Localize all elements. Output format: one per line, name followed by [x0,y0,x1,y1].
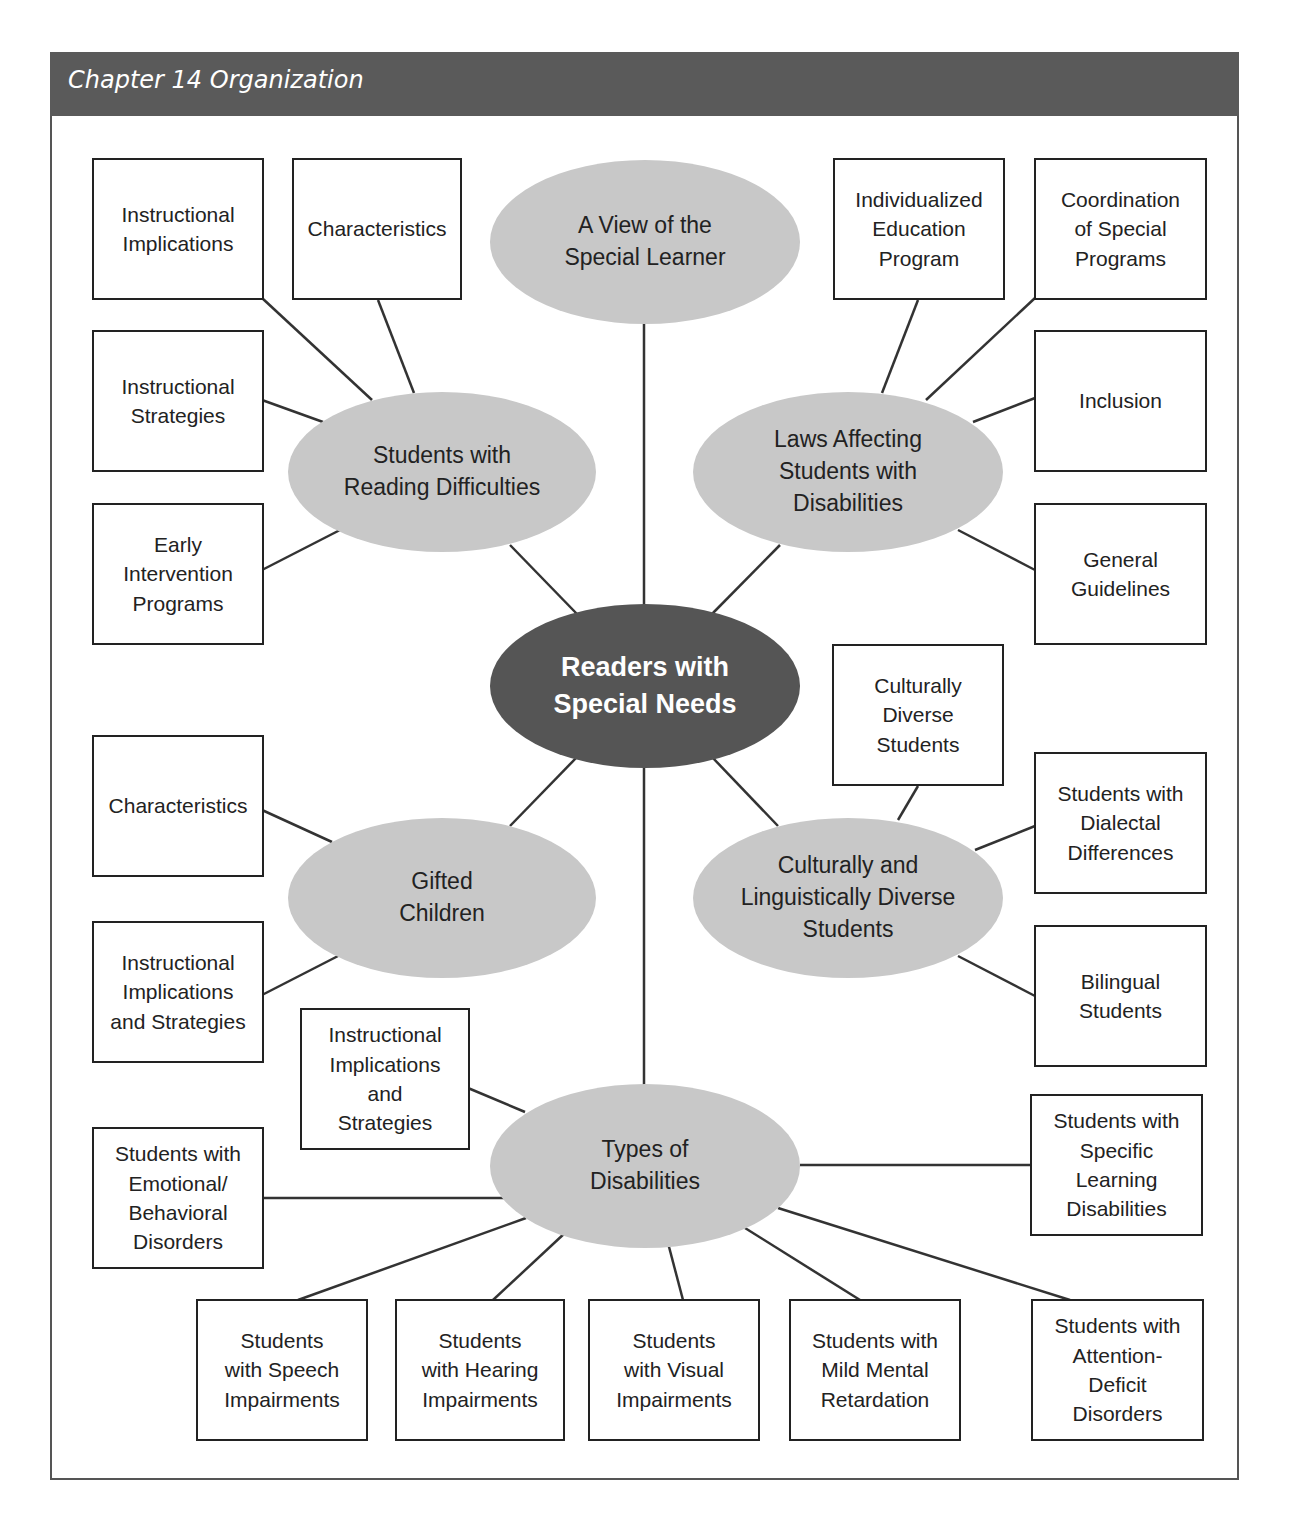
box-label: Instructional Implications and Strategie… [328,1020,441,1138]
box-inclusion: Inclusion [1034,330,1207,472]
box-emotional-behavioral: Students with Emotional/ Behavioral Diso… [92,1127,264,1269]
box-label: Students with Visual Impairments [616,1326,732,1414]
box-dialectal-differences: Students with Dialectal Differences [1034,752,1207,894]
topic-label: Gifted Children [399,866,485,929]
box-label: General Guidelines [1071,545,1170,604]
box-label: Students with Speech Impairments [224,1326,340,1414]
box-label: Characteristics [109,791,248,820]
box-visual-impairments: Students with Visual Impairments [588,1299,760,1441]
box-label: Instructional Implications and Strategie… [110,948,245,1036]
box-culturally-diverse-students: Culturally Diverse Students [832,644,1004,786]
box-label: Students with Specific Learning Disabili… [1053,1106,1179,1224]
box-label: Individualized Education Program [855,185,982,273]
box-types-implications: Instructional Implications and Strategie… [300,1008,470,1150]
topic-types-of-disabilities: Types of Disabilities [490,1084,800,1248]
box-speech-impairments: Students with Speech Impairments [196,1299,368,1441]
topic-culturally-diverse: Culturally and Linguistically Diverse St… [693,818,1003,978]
box-label: Students with Dialectal Differences [1057,779,1183,867]
box-label: Inclusion [1079,386,1162,415]
box-label: Early Intervention Programs [123,530,233,618]
topic-label: A View of the Special Learner [564,210,725,273]
topic-label: Types of Disabilities [590,1134,700,1197]
topic-label: Culturally and Linguistically Diverse St… [741,850,956,945]
box-label: Culturally Diverse Students [874,671,962,759]
topic-laws: Laws Affecting Students with Disabilitie… [693,392,1003,552]
box-label: Students with Attention- Deficit Disorde… [1054,1311,1180,1429]
box-label: Students with Hearing Impairments [422,1326,539,1414]
topic-reading-difficulties: Students with Reading Difficulties [288,392,596,552]
central-topic: Readers with Special Needs [490,604,800,768]
box-gifted-characteristics: Characteristics [92,735,264,877]
box-reading-characteristics: Characteristics [292,158,462,300]
box-bilingual-students: Bilingual Students [1034,925,1207,1067]
box-label: Students with Emotional/ Behavioral Diso… [115,1139,241,1257]
box-reading-strategies: Instructional Strategies [92,330,264,472]
topic-view-of-special-learner: A View of the Special Learner [490,160,800,324]
box-label: Bilingual Students [1079,967,1162,1026]
box-label: Instructional Implications [121,200,234,259]
box-label: Characteristics [308,214,447,243]
topic-label: Students with Reading Difficulties [344,440,540,503]
box-reading-implications: Instructional Implications [92,158,264,300]
box-label: Instructional Strategies [121,372,234,431]
box-attention-deficit: Students with Attention- Deficit Disorde… [1031,1299,1204,1441]
box-specific-learning: Students with Specific Learning Disabili… [1030,1094,1203,1236]
box-general-guidelines: General Guidelines [1034,503,1207,645]
topic-gifted-children: Gifted Children [288,818,596,978]
topic-label: Laws Affecting Students with Disabilitie… [774,424,922,519]
central-topic-label: Readers with Special Needs [553,649,736,724]
box-iep: Individualized Education Program [833,158,1005,300]
box-coordination: Coordination of Special Programs [1034,158,1207,300]
box-hearing-impairments: Students with Hearing Impairments [395,1299,565,1441]
box-mild-mental-retardation: Students with Mild Mental Retardation [789,1299,961,1441]
box-gifted-implications: Instructional Implications and Strategie… [92,921,264,1063]
box-label: Students with Mild Mental Retardation [812,1326,938,1414]
box-early-intervention: Early Intervention Programs [92,503,264,645]
box-label: Coordination of Special Programs [1061,185,1180,273]
